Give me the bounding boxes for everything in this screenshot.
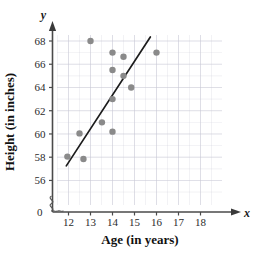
plot-canvas: 56586062646668 12131415161718 0 x y Age …: [0, 0, 261, 262]
y-tick-labels: 56586062646668: [35, 35, 47, 186]
minor-gridlines: [57, 35, 222, 205]
y-tick-label: 60: [35, 128, 47, 140]
data-point: [153, 49, 159, 55]
x-tick-label: 14: [107, 216, 119, 228]
y-tick-label: 58: [35, 151, 47, 163]
data-point: [109, 49, 115, 55]
data-point: [120, 53, 126, 59]
y-tick-label: 68: [35, 35, 47, 47]
x-tick-label: 13: [85, 216, 97, 228]
y-tick-label: 64: [35, 81, 47, 93]
x-tick-label: 16: [151, 216, 163, 228]
x-tick-label: 15: [129, 216, 141, 228]
data-point: [87, 38, 93, 44]
origin-label: 0: [37, 206, 43, 218]
y-tick-label: 66: [35, 58, 47, 70]
major-gridlines: [57, 35, 222, 205]
data-point: [109, 67, 115, 73]
x-tick-label: 17: [173, 216, 185, 228]
y-axis: [49, 21, 56, 212]
x-axis-title: Age (in years): [101, 232, 178, 247]
data-point: [109, 96, 115, 102]
y-tick-label: 62: [35, 105, 46, 117]
data-point: [80, 156, 86, 162]
y-axis-title: Height (in inches): [2, 73, 17, 171]
trend-line-segment: [66, 37, 150, 166]
data-point: [109, 128, 115, 134]
data-point: [120, 73, 126, 79]
y-axis-symbol: y: [39, 8, 47, 22]
data-point: [76, 130, 82, 136]
data-point: [128, 84, 134, 90]
x-tick-label: 12: [63, 216, 74, 228]
x-tick-label: 18: [195, 216, 207, 228]
axis-ticks: [49, 41, 201, 216]
data-point: [99, 119, 105, 125]
scatter-plot-figure: 56586062646668 12131415161718 0 x y Age …: [0, 0, 261, 262]
x-tick-labels: 12131415161718: [63, 216, 207, 228]
data-point: [64, 153, 70, 159]
y-tick-label: 56: [35, 174, 47, 186]
x-axis-symbol: x: [243, 206, 250, 220]
trend-line: [66, 37, 150, 166]
